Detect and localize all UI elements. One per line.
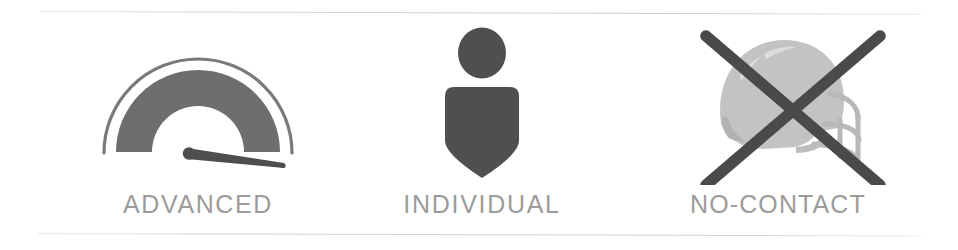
- person-shield-icon: [402, 20, 562, 185]
- attribute-item-no-contact: NO-CONTACT: [648, 20, 908, 235]
- attribute-item-advanced: ADVANCED: [78, 20, 318, 235]
- attribute-item-individual: INDIVIDUAL: [372, 20, 592, 235]
- gauge-icon: [88, 20, 308, 180]
- attributes-strip: ADVANCED INDIVIDUAL: [0, 0, 958, 250]
- attribute-label-individual: INDIVIDUAL: [372, 190, 592, 219]
- attribute-items: ADVANCED INDIVIDUAL: [0, 0, 958, 250]
- helmet-crossed-out-icon: [668, 20, 888, 185]
- attribute-label-no-contact: NO-CONTACT: [648, 190, 908, 219]
- attribute-label-advanced: ADVANCED: [78, 190, 318, 219]
- individual-icon-wrap: [372, 20, 592, 185]
- no-contact-icon-wrap: [648, 20, 908, 185]
- advanced-icon-wrap: [78, 20, 318, 185]
